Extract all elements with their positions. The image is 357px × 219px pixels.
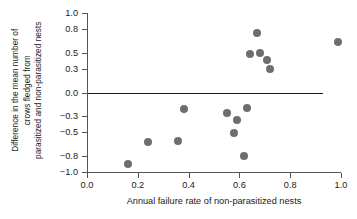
y-tick-label: 1.0: [48, 8, 82, 18]
data-point: [246, 50, 254, 58]
data-point: [233, 116, 241, 124]
y-axis-title-line-2: crows fledged from: [22, 21, 34, 158]
data-point: [174, 137, 182, 145]
y-tick-label: 0.0: [48, 88, 82, 98]
x-tick-label: 0.0: [81, 180, 94, 190]
x-tick-mark: [87, 173, 88, 178]
x-tick-mark: [138, 173, 139, 178]
scatter-plot-figure: Difference in the mean number of crows f…: [0, 0, 357, 219]
y-tick-mark: [82, 53, 87, 54]
data-point: [144, 138, 152, 146]
x-tick-mark: [189, 173, 190, 178]
y-axis-title-line-1: Difference in the mean number of: [11, 21, 23, 158]
x-tick-label: 1.0: [335, 180, 348, 190]
y-tick-label: −0.8: [48, 151, 82, 161]
y-tick-label: 0.3: [48, 64, 82, 74]
data-point: [180, 105, 188, 113]
data-point: [263, 56, 271, 64]
y-tick-label: −0.3: [48, 111, 82, 121]
x-tick-label: 0.8: [284, 180, 297, 190]
y-axis-title-line-3: parasitized and non-parasitized nests: [34, 21, 46, 158]
y-tick-mark: [82, 93, 87, 94]
data-point: [256, 49, 264, 57]
y-tick-label: 0.8: [48, 24, 82, 34]
y-tick-label: 0.5: [48, 48, 82, 58]
y-tick-label: −1.0: [48, 167, 82, 177]
data-point: [124, 160, 132, 168]
y-tick-mark: [82, 29, 87, 30]
data-point: [253, 29, 261, 37]
x-tick-mark: [341, 173, 342, 178]
data-point: [230, 129, 238, 137]
data-point: [240, 152, 248, 160]
x-axis-line: [87, 172, 341, 173]
data-point: [243, 104, 251, 112]
data-point: [223, 109, 231, 117]
y-tick-label: −0.5: [48, 127, 82, 137]
y-tick-mark: [82, 13, 87, 14]
x-tick-label: 0.4: [182, 180, 195, 190]
y-tick-mark: [82, 69, 87, 70]
zero-reference-line: [88, 93, 323, 94]
x-tick-label: 0.6: [233, 180, 246, 190]
y-tick-mark: [82, 132, 87, 133]
x-tick-mark: [239, 173, 240, 178]
y-tick-mark: [82, 116, 87, 117]
x-axis-title: Annual failure rate of non-parasitized n…: [87, 196, 341, 206]
y-tick-mark: [82, 156, 87, 157]
x-tick-mark: [290, 173, 291, 178]
data-point: [266, 65, 274, 73]
x-tick-label: 0.2: [131, 180, 144, 190]
data-point: [334, 38, 342, 46]
